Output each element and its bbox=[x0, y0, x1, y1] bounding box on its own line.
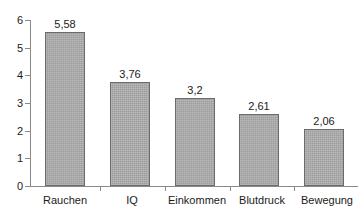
y-axis-tick-1 bbox=[25, 158, 30, 159]
x-axis-tick-4 bbox=[294, 187, 295, 191]
y-axis-tick-0 bbox=[25, 186, 30, 187]
y-axis-tick-3 bbox=[25, 103, 30, 104]
bar-chart: 6 5 4 3 2 1 0 5,58 3,76 3,2 2,61 2,06 Ra… bbox=[0, 0, 363, 219]
x-axis-tick-2 bbox=[165, 187, 166, 191]
bar-iq bbox=[110, 82, 150, 186]
category-label-bewegung: Bewegung bbox=[293, 194, 361, 206]
y-axis-label-1: 1 bbox=[17, 153, 23, 164]
value-label-einkommen: 3,2 bbox=[175, 85, 215, 96]
category-label-einkommen: Einkommen bbox=[163, 194, 231, 206]
x-axis-tick-3 bbox=[230, 187, 231, 191]
bar-einkommen bbox=[175, 98, 215, 186]
y-axis-tick-5 bbox=[25, 48, 30, 49]
y-axis-label-2: 2 bbox=[17, 126, 23, 137]
x-axis-line bbox=[30, 186, 358, 187]
y-axis-tick-2 bbox=[25, 131, 30, 132]
y-axis-label-5: 5 bbox=[17, 43, 23, 54]
y-axis-label-6: 6 bbox=[17, 15, 23, 26]
value-label-iq: 3,76 bbox=[110, 69, 150, 80]
value-label-blutdruck: 2,61 bbox=[239, 101, 279, 112]
value-label-bewegung: 2,06 bbox=[304, 116, 344, 127]
y-axis-label-0: 0 bbox=[17, 181, 23, 192]
y-axis-line bbox=[30, 20, 31, 187]
bar-rauchen bbox=[45, 32, 85, 186]
x-axis-tick-1 bbox=[100, 187, 101, 191]
bar-bewegung bbox=[304, 129, 344, 186]
category-label-rauchen: Rauchen bbox=[33, 194, 97, 206]
category-label-iq: IQ bbox=[100, 194, 164, 206]
value-label-rauchen: 5,58 bbox=[45, 19, 85, 30]
y-axis-tick-4 bbox=[25, 75, 30, 76]
y-axis-label-3: 3 bbox=[17, 98, 23, 109]
y-axis-tick-6 bbox=[25, 20, 30, 21]
bar-blutdruck bbox=[239, 114, 279, 186]
y-axis-label-4: 4 bbox=[17, 70, 23, 81]
category-label-blutdruck: Blutdruck bbox=[229, 194, 295, 206]
